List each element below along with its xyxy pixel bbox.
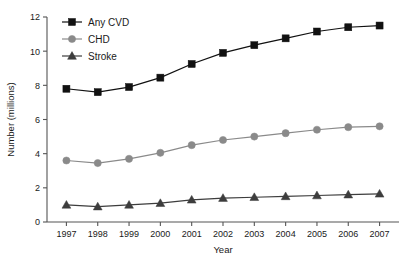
y-axis-tick-label: 6 <box>35 115 40 125</box>
series-line <box>66 126 379 163</box>
data-point <box>94 89 101 96</box>
legend-label: Any CVD <box>88 17 129 28</box>
legend-marker <box>68 35 75 42</box>
x-axis-tick-label: 1998 <box>88 229 108 239</box>
y-axis-tick-label: 8 <box>35 81 40 91</box>
data-point <box>63 85 70 92</box>
x-axis-tick-label: 2005 <box>307 229 327 239</box>
chart-container: 0246810121997199819992000200120022003200… <box>0 0 418 262</box>
x-axis-tick-label: 2003 <box>244 229 264 239</box>
data-point <box>94 159 101 166</box>
y-axis-tick-label: 12 <box>30 12 40 22</box>
legend-marker <box>69 19 76 26</box>
x-axis-tick-label: 2002 <box>213 229 233 239</box>
data-point <box>251 133 258 140</box>
data-point <box>251 42 258 49</box>
data-point <box>220 49 227 56</box>
x-axis-tick-label: 1997 <box>56 229 76 239</box>
y-axis-tick-label: 0 <box>35 217 40 227</box>
x-axis-tick-label: 2004 <box>276 229 296 239</box>
data-point <box>126 84 133 91</box>
data-point <box>376 22 383 29</box>
series-chd <box>63 123 383 167</box>
line-chart: 0246810121997199819992000200120022003200… <box>0 0 418 262</box>
data-point <box>63 157 70 164</box>
y-axis-tick-label: 2 <box>35 183 40 193</box>
data-point <box>188 142 195 149</box>
legend-label: Stroke <box>88 51 117 62</box>
x-axis-title: Year <box>213 244 232 255</box>
data-point <box>125 155 132 162</box>
x-axis-tick-label: 1999 <box>119 229 139 239</box>
data-point <box>157 149 164 156</box>
data-point <box>376 123 383 130</box>
data-point <box>219 136 226 143</box>
data-point <box>282 35 289 42</box>
data-point <box>345 24 352 31</box>
y-axis-tick-label: 10 <box>30 47 40 57</box>
y-axis-title: Number (millions) <box>5 82 16 156</box>
data-point <box>313 28 320 35</box>
data-point <box>62 201 71 209</box>
data-point <box>345 124 352 131</box>
x-axis-tick-label: 2000 <box>150 229 170 239</box>
data-point <box>282 130 289 137</box>
data-point <box>375 189 384 197</box>
data-point <box>157 74 164 81</box>
x-axis-tick-label: 2001 <box>182 229 202 239</box>
data-point <box>313 126 320 133</box>
x-axis-tick-label: 2007 <box>370 229 390 239</box>
legend: Any CVDCHDStroke <box>62 17 129 62</box>
series-stroke <box>62 189 384 210</box>
x-axis-tick-label: 2006 <box>338 229 358 239</box>
legend-label: CHD <box>88 34 110 45</box>
y-axis-tick-label: 4 <box>35 149 40 159</box>
data-point <box>188 60 195 67</box>
